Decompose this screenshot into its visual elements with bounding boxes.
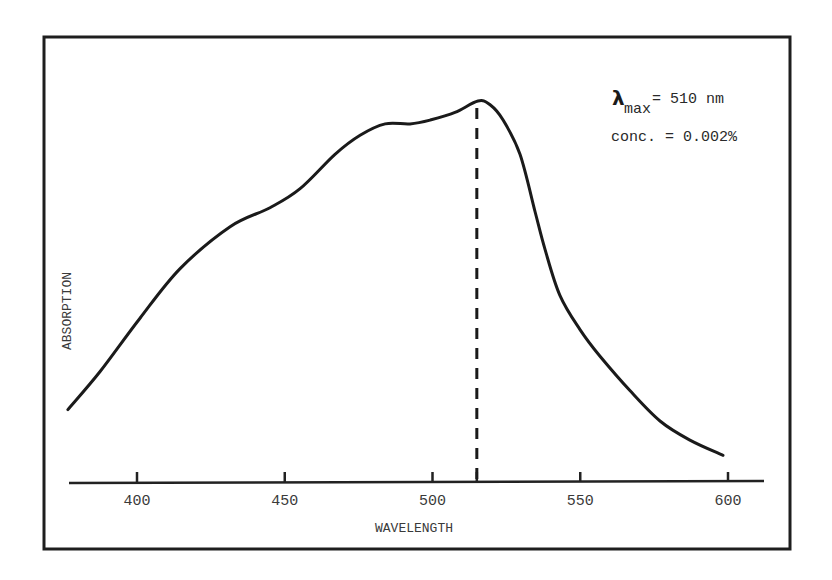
x-tick-label: 400: [123, 493, 150, 510]
x-axis-label: WAVELENGTH: [375, 521, 453, 536]
x-tick-label: 550: [567, 493, 594, 510]
concentration-annotation: conc. = 0.002%: [611, 129, 738, 146]
y-axis-label: ABSORPTION: [60, 272, 75, 350]
x-tick-label: 600: [714, 493, 741, 510]
x-tick-label: 500: [419, 493, 446, 510]
lambda-subscript: max: [624, 101, 651, 118]
chart-frame: [44, 37, 790, 549]
absorption-curve: [68, 101, 723, 456]
x-axis-line: [69, 481, 764, 483]
x-tick-label: 450: [271, 493, 298, 510]
lambda-value: = 510 nm: [652, 91, 724, 108]
spectrum-chart: 400450500550600 WAVELENGTH ABSORPTION λ …: [0, 0, 832, 580]
lambda-max-annotation: λ max = 510 nm: [612, 86, 724, 118]
x-axis-tick-labels: 400450500550600: [123, 493, 741, 510]
